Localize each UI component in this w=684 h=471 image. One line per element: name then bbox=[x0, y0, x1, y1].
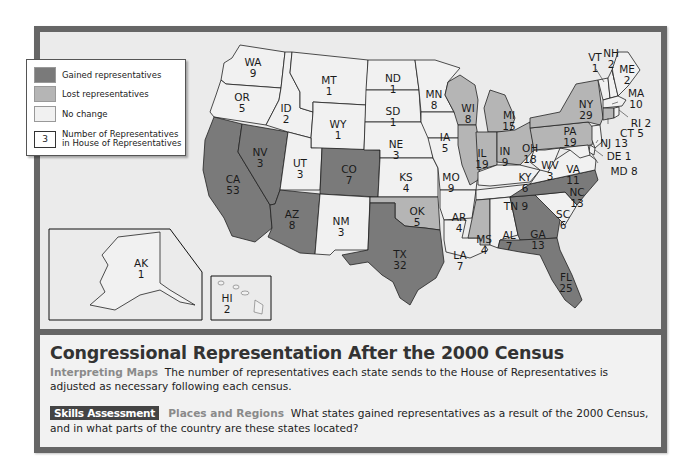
svg-text:6: 6 bbox=[560, 219, 567, 231]
svg-text:8: 8 bbox=[431, 99, 438, 111]
svg-text:9: 9 bbox=[250, 67, 257, 79]
svg-text:3: 3 bbox=[338, 226, 345, 238]
places-regions-label: Places and Regions bbox=[168, 407, 284, 419]
skills-assessment-text: Skills Assessment Places and Regions Wha… bbox=[50, 406, 650, 436]
map-legend: Gained representatives Lost representati… bbox=[26, 59, 186, 156]
legend-label: Gained representatives bbox=[62, 71, 161, 80]
svg-text:7: 7 bbox=[457, 260, 464, 272]
legend-item-lost: Lost representatives bbox=[34, 86, 149, 102]
svg-text:7: 7 bbox=[506, 240, 513, 252]
svg-text:2: 2 bbox=[608, 58, 615, 70]
svg-text:18: 18 bbox=[523, 153, 536, 165]
svg-text:2: 2 bbox=[283, 113, 290, 125]
svg-text:3: 3 bbox=[297, 168, 304, 180]
svg-text:11: 11 bbox=[566, 174, 579, 186]
svg-text:1: 1 bbox=[326, 85, 333, 97]
svg-text:3: 3 bbox=[257, 157, 264, 169]
svg-text:TN 9: TN 9 bbox=[503, 200, 528, 212]
number-sample-box: 3 bbox=[34, 131, 56, 148]
svg-text:3: 3 bbox=[393, 149, 400, 161]
svg-text:2: 2 bbox=[224, 303, 231, 315]
svg-text:10: 10 bbox=[629, 98, 642, 110]
svg-text:7: 7 bbox=[346, 174, 353, 186]
gained-swatch bbox=[34, 67, 56, 83]
svg-text:13: 13 bbox=[570, 197, 583, 209]
svg-text:MD 8: MD 8 bbox=[610, 165, 637, 177]
legend-item-gained: Gained representatives bbox=[34, 67, 161, 83]
svg-text:1: 1 bbox=[390, 116, 397, 128]
caption-panel: Congressional Representation After the 2… bbox=[40, 335, 661, 447]
state-ri bbox=[614, 107, 619, 118]
svg-text:1: 1 bbox=[592, 62, 599, 74]
map-title: Congressional Representation After the 2… bbox=[50, 343, 564, 363]
svg-text:1: 1 bbox=[335, 129, 342, 141]
svg-text:9: 9 bbox=[502, 156, 509, 168]
no-change-swatch bbox=[34, 106, 56, 122]
svg-text:5: 5 bbox=[442, 142, 449, 154]
svg-text:3: 3 bbox=[547, 170, 554, 182]
svg-text:5: 5 bbox=[414, 216, 421, 228]
svg-text:53: 53 bbox=[226, 184, 239, 196]
legend-label: Number of Representatives in House of Re… bbox=[62, 130, 181, 148]
svg-text:19: 19 bbox=[563, 136, 576, 148]
svg-text:15: 15 bbox=[502, 120, 515, 132]
svg-text:9: 9 bbox=[448, 182, 455, 194]
legend-item-no-change: No change bbox=[34, 106, 108, 122]
legend-label: No change bbox=[62, 110, 108, 119]
skills-assessment-badge: Skills Assessment bbox=[50, 406, 159, 420]
svg-text:4: 4 bbox=[403, 182, 410, 194]
svg-text:5: 5 bbox=[239, 102, 246, 114]
svg-text:NJ 13: NJ 13 bbox=[600, 137, 628, 149]
svg-text:19: 19 bbox=[475, 158, 488, 170]
svg-text:8: 8 bbox=[465, 113, 472, 125]
svg-text:4: 4 bbox=[456, 222, 463, 234]
lost-swatch bbox=[34, 86, 56, 102]
svg-text:6: 6 bbox=[522, 182, 529, 194]
number-label-line2: in House of Representatives bbox=[62, 138, 181, 148]
svg-text:2: 2 bbox=[624, 74, 631, 86]
interpreting-maps-text: Interpreting Maps The number of represen… bbox=[50, 365, 650, 393]
state-ct bbox=[603, 108, 614, 120]
svg-text:29: 29 bbox=[579, 109, 592, 121]
svg-text:DE 1: DE 1 bbox=[607, 150, 632, 162]
svg-text:1: 1 bbox=[390, 83, 397, 95]
svg-text:8: 8 bbox=[289, 219, 296, 231]
legend-item-number: 3 Number of Representatives in House of … bbox=[34, 130, 181, 148]
svg-text:1: 1 bbox=[138, 268, 145, 280]
svg-text:25: 25 bbox=[559, 282, 572, 294]
legend-label: Lost representatives bbox=[62, 90, 149, 99]
svg-text:13: 13 bbox=[531, 239, 544, 251]
interpreting-maps-label: Interpreting Maps bbox=[50, 366, 158, 378]
svg-text:32: 32 bbox=[393, 259, 406, 271]
svg-text:4: 4 bbox=[481, 244, 488, 256]
